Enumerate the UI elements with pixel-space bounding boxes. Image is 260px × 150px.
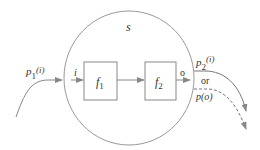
output-path-label: p2(i) <box>195 54 215 72</box>
alt-output-label: p(o) <box>195 91 213 103</box>
input-label: i <box>74 67 77 78</box>
or-label: or <box>201 75 210 86</box>
input-path-curve <box>16 80 62 117</box>
system-label: s <box>126 20 131 34</box>
output-label: o <box>180 67 185 78</box>
input-path-label: p1(i) <box>25 65 45 81</box>
system-diagram: s p1(i) i f1 f2 o p2(i) or p(o) <box>0 0 260 150</box>
